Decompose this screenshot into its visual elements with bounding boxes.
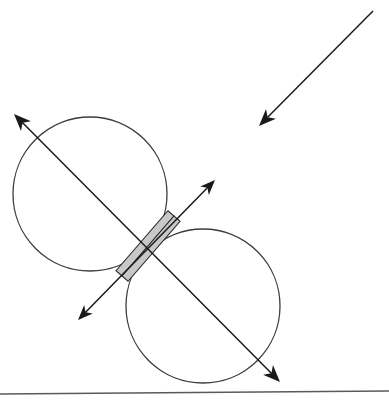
incoming-single-arrow-shaft [267, 11, 373, 118]
diagram-svg [0, 0, 389, 400]
diagram-canvas [0, 0, 389, 400]
main-double-arrow-shaft [22, 122, 271, 373]
arrows-group [14, 11, 373, 382]
baseline-group [0, 391, 389, 394]
secondary-double-arrow-shaft [85, 188, 207, 313]
shaded-bar-strip-lower [122, 216, 180, 281]
ground-baseline [0, 391, 389, 394]
